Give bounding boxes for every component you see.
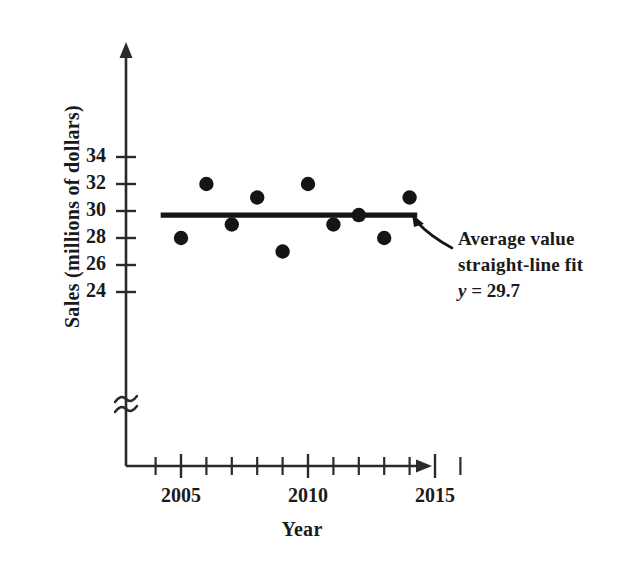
y-axis-tick-label: 32 — [66, 171, 106, 194]
y-axis-tick-label: 34 — [66, 144, 106, 167]
chart-axes — [115, 42, 460, 478]
data-point — [402, 190, 416, 204]
x-axis-tick-label: 2010 — [268, 484, 348, 507]
data-point — [326, 217, 340, 231]
data-point — [199, 177, 213, 191]
y-axis-tick-label: 30 — [66, 198, 106, 221]
chart-figure: Sales (millions of dollars) Year 3432302… — [0, 0, 642, 579]
x-axis-tick-label: 2005 — [141, 484, 221, 507]
x-axis-title: Year — [232, 518, 372, 541]
y-axis-tick-label: 24 — [66, 279, 106, 302]
y-axis-tick-label: 26 — [66, 252, 106, 275]
data-point — [174, 231, 188, 245]
data-point — [352, 208, 366, 222]
data-point — [377, 231, 391, 245]
x-axis-tick-label: 2015 — [395, 484, 475, 507]
data-point — [275, 244, 289, 258]
annotation-equation-value: = 29.7 — [466, 280, 520, 301]
data-point — [225, 217, 239, 231]
y-axis-tick-label: 28 — [66, 225, 106, 248]
annotation-equation: y = 29.7 — [458, 280, 520, 302]
annotation-arrow — [412, 214, 452, 248]
data-points — [174, 177, 417, 259]
data-point — [301, 177, 315, 191]
annotation-line-1: Average value — [458, 228, 575, 250]
annotation-line-2: straight-line fit — [458, 254, 583, 276]
data-point — [250, 190, 264, 204]
